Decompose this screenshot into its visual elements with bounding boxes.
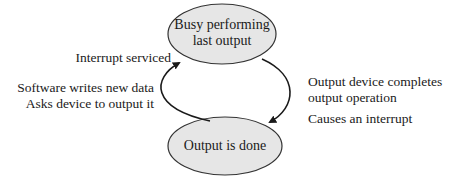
label-output-device-line2: output operation <box>308 90 442 106</box>
label-output-device-completes: Output device completes output operation <box>308 74 442 106</box>
label-output-device-line1: Output device completes <box>308 74 442 90</box>
arc-left <box>161 63 210 121</box>
label-software-writes-line1: Software writes new data <box>17 80 154 96</box>
label-causes-interrupt: Causes an interrupt <box>308 111 412 127</box>
label-interrupt-serviced: Interrupt serviced <box>75 50 171 66</box>
state-busy-label: Busy performing last output <box>168 17 276 49</box>
label-software-writes: Software writes new data Asks device to … <box>17 80 154 112</box>
arc-right <box>262 59 290 122</box>
state-done-label: Output is done <box>168 138 282 154</box>
state-busy-line1: Busy performing <box>168 17 276 33</box>
label-software-writes-line2: Asks device to output it <box>17 96 154 112</box>
state-done-line1: Output is done <box>168 138 282 154</box>
state-diagram: Busy performing last output Output is do… <box>0 0 465 181</box>
state-busy-line2: last output <box>168 33 276 49</box>
